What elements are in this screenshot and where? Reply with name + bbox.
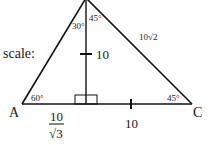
angle-apex-right-label: 45° [89, 13, 102, 23]
base-left-numerator: 10 [50, 109, 63, 124]
angle-a-label: 60° [31, 93, 44, 103]
vertex-c-label: C [193, 105, 202, 120]
vertex-a-label: A [9, 105, 20, 120]
triangle-diagram: scale: A C 60° 45° 30° 45° 10√2 10 10 10… [0, 0, 208, 145]
angle-apex-left-label: 30° [72, 21, 85, 31]
altitude-label: 10 [96, 47, 109, 62]
hypotenuse-label: 10√2 [139, 32, 157, 42]
base-left-denominator: √3 [49, 126, 63, 141]
base-right-label: 10 [125, 116, 138, 131]
angle-c-label: 45° [167, 93, 180, 103]
scale-label: scale: [3, 46, 35, 61]
